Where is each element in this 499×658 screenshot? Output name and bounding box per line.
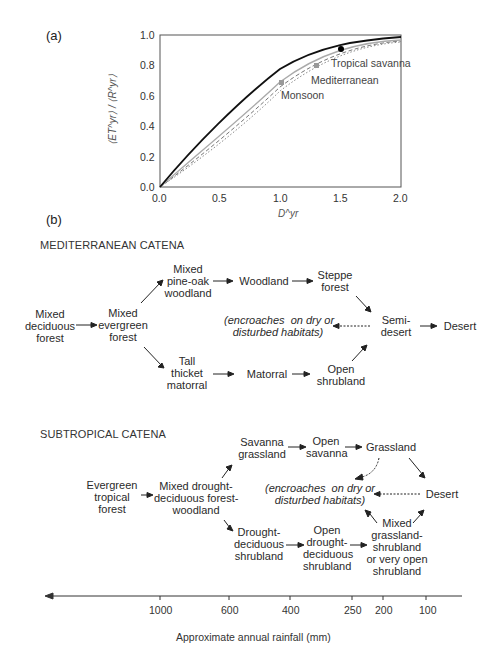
rainfall-tick: 1000 — [149, 604, 172, 616]
node-encroaches: (encroaches on dry or disturbed habitats… — [224, 314, 332, 338]
node-open-shrubland: Open shrubland — [316, 363, 366, 387]
x-tick: 0.5 — [212, 192, 227, 204]
node-evergreen-tropical-forest: Evergreen tropical forest — [84, 479, 140, 515]
x-tick: 1.5 — [333, 192, 348, 204]
node-mixed-evergreen-forest: Mixed evergreen forest — [98, 307, 148, 343]
subtropical-catena-title: SUBTROPICAL CATENA — [40, 428, 166, 440]
node-encroaches-subtropical: (encroaches on dry or disturbed habitats… — [264, 482, 376, 506]
rainfall-axis — [45, 593, 462, 600]
rainfall-axis-label: Approximate annual rainfall (mm) — [176, 631, 331, 643]
node-mixed-grassland-shrubland: Mixed grassland- shrubland or very open … — [366, 517, 428, 577]
node-matorral: Matorral — [244, 368, 290, 380]
node-tall-thicket-matorral: Tall thicket matorral — [164, 355, 210, 391]
y-tick: 0.8 — [140, 59, 155, 71]
node-steppe-forest: Steppe forest — [315, 269, 355, 293]
node-open-savanna: Open savanna — [306, 435, 346, 459]
marker-tropical-savanna — [338, 46, 344, 52]
annotation-tropical-savanna: Tropical savanna — [331, 57, 411, 69]
marker-monsoon — [279, 80, 284, 85]
mediterranean-catena-title: MEDITERRANEAN CATENA — [40, 239, 184, 251]
node-mixed-deciduous-forest: Mixed deciduous forest — [24, 308, 76, 344]
annotation-mediterranean: Mediterranean — [311, 74, 379, 86]
x-tick: 0.0 — [152, 192, 167, 204]
node-savanna-grassland: Savanna grassland — [237, 436, 287, 460]
rainfall-tick: 400 — [282, 604, 300, 616]
node-mixed-drought-deciduous: Mixed drought- deciduous forest- woodlan… — [154, 480, 238, 516]
node-mixed-pine-oak-woodland: Mixed pine-oak woodland — [163, 263, 213, 299]
marker-mediterranean — [314, 63, 319, 68]
panel-b-label: (b) — [46, 212, 62, 227]
x-tick: 2.0 — [393, 192, 408, 204]
annotation-monsoon: Monsoon — [281, 89, 324, 101]
y-axis-label: ⟨ET^yr⟩ / ⟨R^yr⟩ — [107, 70, 118, 150]
y-tick: 0.4 — [140, 120, 155, 132]
rainfall-tick: 250 — [344, 604, 362, 616]
y-tick: 0.6 — [140, 90, 155, 102]
node-semi-desert: Semi- desert — [374, 314, 418, 338]
node-desert: Desert — [440, 320, 480, 332]
node-woodland: Woodland — [236, 275, 292, 287]
x-axis-label: D^yr — [278, 208, 298, 219]
y-tick: 0.2 — [140, 151, 155, 163]
node-grassland: Grassland — [364, 441, 418, 453]
node-drought-deciduous-shrubland: Drought- deciduous shrubland — [233, 526, 285, 562]
x-tick: 1.0 — [273, 192, 288, 204]
node-desert-subtropical: Desert — [422, 488, 462, 500]
y-tick: 1.0 — [140, 29, 155, 41]
node-open-drought-deciduous-shrubland: Open drought- deciduous shrubland — [303, 524, 351, 572]
rainfall-tick: 100 — [419, 604, 437, 616]
rainfall-tick: 200 — [375, 604, 393, 616]
rainfall-tick: 600 — [221, 604, 239, 616]
